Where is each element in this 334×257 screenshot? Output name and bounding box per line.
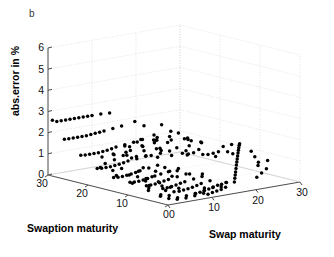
tick-mark-y — [48, 111, 52, 112]
tick-label-y: 2 — [38, 126, 44, 138]
data-point — [110, 147, 114, 151]
data-point — [172, 190, 176, 194]
data-point — [122, 161, 126, 165]
data-point — [179, 182, 183, 186]
data-point — [111, 152, 115, 156]
tick-label-swaption: 20 — [76, 187, 88, 199]
data-point — [198, 190, 202, 194]
data-point — [67, 137, 71, 141]
data-point — [221, 145, 225, 149]
gridline-horizontal — [48, 46, 180, 69]
data-point — [211, 186, 215, 190]
data-point — [59, 119, 63, 123]
data-point — [153, 182, 157, 186]
data-point — [121, 175, 125, 179]
data-point — [93, 132, 97, 136]
data-point — [136, 175, 140, 179]
data-point — [175, 146, 179, 150]
data-point — [201, 153, 205, 157]
data-point — [186, 187, 190, 191]
data-point — [219, 185, 223, 189]
tick-label-y: 1 — [38, 147, 44, 159]
tick-label-swaption: 10 — [116, 197, 128, 209]
data-point — [71, 136, 75, 140]
data-point — [100, 155, 104, 159]
data-point — [255, 175, 259, 179]
data-point — [224, 186, 228, 190]
data-point — [238, 142, 242, 146]
data-point — [147, 166, 151, 170]
data-point — [76, 136, 80, 140]
data-point — [160, 184, 164, 188]
data-point — [64, 118, 68, 122]
data-point — [197, 148, 201, 152]
data-point — [224, 181, 228, 185]
data-point — [121, 154, 125, 158]
data-point — [184, 196, 188, 200]
data-point — [63, 137, 67, 141]
data-point — [249, 150, 253, 154]
data-point — [127, 173, 131, 177]
tick-mark-y — [48, 132, 52, 133]
data-point — [104, 166, 108, 170]
data-point — [156, 164, 160, 168]
data-point — [142, 124, 146, 128]
data-point — [174, 183, 178, 187]
data-point — [257, 160, 261, 164]
data-point — [81, 115, 85, 119]
data-point — [189, 139, 193, 143]
data-point — [191, 185, 195, 189]
data-point — [206, 192, 210, 196]
data-point — [215, 189, 219, 193]
data-point — [130, 156, 134, 160]
data-point — [217, 150, 221, 154]
data-point — [183, 180, 187, 184]
data-point — [113, 158, 117, 162]
data-point — [167, 197, 171, 201]
data-point — [167, 194, 171, 198]
gridline-horizontal — [180, 25, 300, 55]
tick-label-y: 3 — [38, 105, 44, 117]
data-point — [199, 182, 203, 186]
data-point — [167, 170, 171, 174]
data-point — [168, 135, 172, 139]
data-point — [120, 167, 124, 171]
data-point — [149, 154, 153, 158]
data-point — [153, 174, 157, 178]
tick-label-swaption: 30 — [36, 177, 48, 189]
data-point — [132, 141, 136, 145]
data-point — [123, 144, 127, 148]
figure-3d-scatter-plot: b abs.error in % Swaption maturity Swap … — [0, 0, 334, 257]
tick-label-swap: 30 — [296, 186, 308, 198]
data-point — [89, 133, 93, 137]
tick-label-y: 5 — [38, 63, 44, 75]
data-point — [211, 191, 215, 195]
data-point — [113, 164, 117, 168]
data-point — [115, 174, 119, 178]
data-point — [184, 172, 188, 176]
data-point — [155, 139, 159, 143]
tick-label-swap: 20 — [252, 194, 264, 206]
data-point — [235, 160, 239, 164]
data-point — [128, 145, 132, 149]
data-point — [266, 159, 270, 163]
data-point — [95, 167, 99, 171]
data-point — [55, 120, 59, 124]
data-point — [105, 149, 109, 153]
data-point — [139, 138, 143, 142]
data-point — [175, 175, 179, 179]
data-point — [90, 114, 94, 118]
tick-mark-swap — [300, 182, 302, 185]
data-point — [99, 166, 103, 170]
data-point — [187, 152, 191, 156]
data-point — [141, 166, 145, 170]
data-point — [79, 153, 83, 157]
data-point — [157, 180, 161, 184]
data-point — [86, 114, 90, 118]
gridline-horizontal — [48, 67, 180, 90]
tick-mark-y — [48, 174, 52, 175]
data-point — [162, 179, 166, 183]
tick-label-y: 4 — [38, 84, 44, 96]
data-point — [233, 173, 237, 177]
data-point — [164, 189, 168, 193]
